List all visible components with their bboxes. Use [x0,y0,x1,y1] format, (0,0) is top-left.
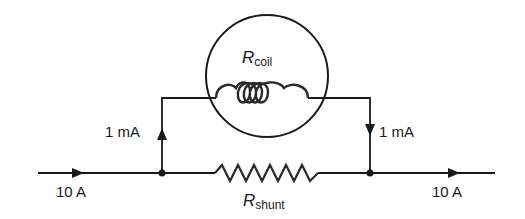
junction-dot-right [367,170,374,177]
input-current-label: 10 A [56,183,86,200]
coil-in-current-label: 1 mA [105,123,140,140]
coil-out-current-label: 1 mA [379,123,414,140]
arrow-up-icon [157,128,167,140]
output-current-label: 10 A [432,183,462,200]
arrow-down-icon [365,124,375,136]
arrow-right-icon [448,168,460,178]
coil-branch-wire [162,98,370,173]
resistor-icon [215,165,318,181]
coil-label: Rcoil [242,48,272,69]
meter-circle [206,15,328,137]
arrow-right-icon [72,168,84,178]
shunt-label: Rshunt [243,191,285,212]
junction-dot-left [159,170,166,177]
coil-icon [216,82,308,102]
